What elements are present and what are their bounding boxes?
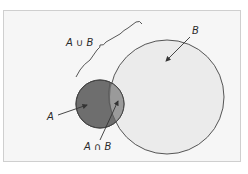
set-a-label: A bbox=[46, 111, 54, 122]
intersection-label: A ∩ B bbox=[83, 141, 112, 152]
venn-diagram: A ∪ B B A A ∩ B bbox=[0, 0, 248, 174]
union-label: A ∪ B bbox=[65, 37, 94, 48]
set-b-circle bbox=[110, 40, 224, 154]
set-b-label: B bbox=[192, 25, 199, 36]
